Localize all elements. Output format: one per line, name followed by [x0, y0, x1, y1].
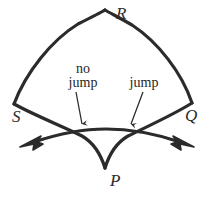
no-jump-pointer-arrow [76, 92, 82, 124]
figure-container: R S Q P no jump jump [0, 0, 208, 198]
arrow-left-head [20, 136, 43, 150]
annotation-no-jump-line2: jump [58, 76, 108, 90]
annotation-jump: jump [124, 76, 164, 90]
vertex-label-Q: Q [185, 107, 197, 124]
annotation-jump-line1: jump [130, 75, 159, 90]
trajectory-path [34, 129, 180, 142]
jump-pointer-arrow [131, 92, 143, 124]
annotation-no-jump: no jump [58, 62, 108, 91]
vertex-label-P: P [110, 172, 120, 189]
vertex-label-S: S [12, 108, 21, 125]
diagram-svg [0, 0, 208, 198]
vertex-label-R: R [116, 5, 126, 22]
curve-P-to-Q [105, 103, 192, 168]
arrow-right-head [171, 136, 194, 150]
annotation-no-jump-line1: no [76, 61, 90, 76]
